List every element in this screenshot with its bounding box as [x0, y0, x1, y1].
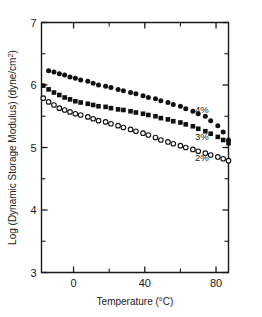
data-point	[62, 73, 67, 78]
data-point	[141, 93, 146, 98]
data-point	[86, 101, 91, 106]
data-point	[134, 129, 139, 134]
data-point	[108, 85, 113, 90]
data-point	[68, 97, 73, 102]
data-point	[96, 104, 101, 109]
data-point	[128, 109, 133, 114]
data-point	[216, 155, 221, 160]
y-tick-label: 4	[30, 204, 36, 216]
y-axis-title-main: Log (Dynamic Storage Modulus) (dyne/cm	[7, 58, 18, 245]
x-axis-title: Temperature (°C)	[97, 296, 174, 307]
plot-area: 34567040804%3%2%Temperature (°C)Log (Dyn…	[0, 0, 262, 317]
data-point	[191, 124, 196, 129]
data-point	[85, 79, 90, 84]
data-point	[52, 103, 57, 108]
data-point	[52, 90, 57, 95]
data-point	[141, 131, 146, 136]
data-point	[78, 78, 83, 83]
data-point	[103, 84, 108, 89]
data-point	[221, 138, 226, 143]
data-point	[159, 138, 164, 143]
y-tick-label: 6	[30, 79, 36, 91]
data-point	[91, 116, 96, 121]
data-point	[146, 113, 151, 118]
chart-figure: 34567040804%3%2%Temperature (°C)Log (Dyn…	[0, 0, 262, 317]
data-point	[221, 156, 226, 161]
data-point	[109, 106, 114, 111]
x-tick-label: 0	[70, 277, 76, 289]
data-point	[57, 106, 62, 111]
data-point	[146, 133, 151, 138]
series-label-4pct: 4%	[195, 104, 209, 115]
y-axis-title-tail: )	[7, 50, 18, 53]
data-point	[178, 120, 183, 125]
data-point	[91, 103, 96, 108]
data-point	[67, 74, 72, 79]
data-point	[78, 100, 83, 105]
y-axis-title: Log (Dynamic Storage Modulus) (dyne/cm2)	[6, 50, 18, 245]
data-point	[166, 117, 171, 122]
data-point	[86, 115, 91, 120]
data-point	[121, 88, 126, 93]
data-point	[183, 122, 188, 127]
data-point	[159, 116, 164, 121]
data-point	[73, 111, 78, 116]
data-point	[221, 129, 226, 134]
data-point	[46, 87, 51, 92]
data-point	[91, 81, 96, 86]
data-point	[216, 135, 221, 140]
data-point	[116, 87, 121, 92]
data-point	[208, 118, 213, 123]
data-point	[208, 153, 213, 158]
data-point	[109, 121, 114, 126]
data-point	[171, 102, 176, 107]
data-point	[208, 131, 213, 136]
data-point	[57, 93, 62, 98]
data-point	[121, 108, 126, 113]
data-point	[103, 120, 108, 125]
data-point	[183, 106, 188, 111]
x-tick-label: 40	[139, 277, 151, 289]
data-point	[46, 100, 51, 105]
data-point	[57, 71, 62, 76]
data-point	[46, 68, 51, 73]
series-label-3pct: 3%	[195, 131, 209, 142]
data-point	[153, 96, 158, 101]
data-point	[96, 118, 101, 123]
data-point	[128, 127, 133, 132]
data-point	[153, 135, 158, 140]
data-point	[121, 125, 126, 130]
y-tick-label: 5	[30, 142, 36, 154]
data-point	[166, 140, 171, 145]
data-point	[96, 83, 101, 88]
data-point	[41, 83, 46, 88]
data-point	[116, 107, 121, 112]
data-point	[226, 158, 231, 163]
plot-frame	[42, 23, 229, 273]
data-point	[128, 90, 133, 95]
data-point	[41, 96, 46, 101]
data-point	[73, 76, 78, 81]
data-point	[165, 100, 170, 105]
data-point	[62, 95, 67, 100]
data-point	[171, 141, 176, 146]
data-point	[78, 113, 83, 118]
data-point	[73, 99, 78, 104]
data-point	[68, 110, 73, 115]
data-point	[62, 108, 67, 113]
data-point	[116, 123, 121, 128]
y-tick-label: 3	[30, 267, 36, 279]
data-point	[178, 143, 183, 148]
data-point	[171, 119, 176, 124]
data-point	[158, 98, 163, 103]
y-tick-label: 7	[30, 17, 36, 29]
data-point	[153, 114, 158, 119]
data-point	[215, 123, 220, 128]
data-point	[141, 111, 146, 116]
data-point	[51, 69, 56, 74]
data-point	[178, 104, 183, 109]
series-label-2pct: 2%	[195, 152, 209, 163]
data-point	[103, 105, 108, 110]
data-point	[134, 110, 139, 115]
data-point	[133, 91, 138, 96]
